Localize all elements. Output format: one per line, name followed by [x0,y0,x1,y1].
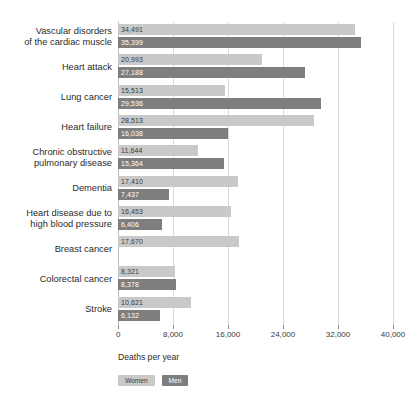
bar-value-label: 10,621 [121,297,143,308]
bar-value-label: 29,536 [121,98,143,109]
bar-group: 8,3218,378 [118,264,393,294]
bar-value-label: 20,993 [121,54,143,65]
bar-women[interactable]: 16,453 [118,206,231,217]
x-tick [173,325,174,329]
bar-men[interactable]: 29,536 [118,98,321,109]
bar-women[interactable]: 17,410 [118,176,238,187]
x-axis-title: Deaths per year [118,352,179,362]
bar-value-label: 8,321 [121,266,139,277]
bar-group: 17,4107,437 [118,174,393,204]
category-label: Colorectal cancer [0,274,112,285]
category-label: Stroke [0,304,112,315]
bar-value-label: 16,038 [121,128,143,139]
chart-legend: Women Men [118,375,188,386]
legend-item-men[interactable]: Men [162,375,189,386]
bar-value-label: 17,410 [121,176,143,187]
x-tick [228,325,229,329]
bar-value-label: 8,378 [121,279,139,290]
bar-group: 16,4536,406 [118,204,393,234]
x-axis: 08,00016,00024,00032,00040,000 [118,325,393,341]
x-tick-label: 32,000 [326,330,350,339]
bar-value-label: 27,188 [121,67,143,78]
bar-men[interactable]: 6,132 [118,310,160,321]
bar-group: 17,670 [118,234,393,264]
bar-value-label: 15,513 [121,85,143,96]
category-label: Chronic obstructive pulmonary disease [0,147,112,169]
x-tick-label: 24,000 [271,330,295,339]
category-label: Breast cancer [0,244,112,255]
bar-value-label: 7,437 [121,189,139,200]
bar-men[interactable]: 16,038 [118,128,228,139]
bar-men[interactable]: 6,406 [118,219,162,230]
x-tick [118,325,119,329]
bar-women[interactable]: 10,621 [118,297,191,308]
bar-group: 20,99327,188 [118,52,393,82]
bar-value-label: 28,513 [121,115,143,126]
x-tick-label: 8,000 [163,330,183,339]
x-tick [283,325,284,329]
x-tick [393,325,394,329]
bar-men[interactable]: 7,437 [118,189,169,200]
x-tick-label: 0 [116,330,120,339]
bar-value-label: 11,644 [121,145,143,156]
bar-men[interactable]: 35,399 [118,37,361,48]
bar-value-label: 15,364 [121,158,143,169]
bar-men[interactable]: 27,188 [118,67,305,78]
x-tick-label: 40,000 [381,330,405,339]
plot-area: 34,49135,39920,99327,18815,51329,53628,5… [118,22,393,325]
x-tick-label: 16,000 [216,330,240,339]
bar-group: 10,6216,132 [118,295,393,325]
bar-group: 11,64415,364 [118,143,393,173]
bar-women[interactable]: 11,644 [118,145,198,156]
gridline [393,22,394,325]
bar-women[interactable]: 17,670 [118,236,239,247]
category-label: Dementia [0,183,112,194]
category-axis-labels: Vascular disorders of the cardiac muscle… [0,22,112,325]
bar-value-label: 16,453 [121,206,143,217]
category-label: Heart disease due to high blood pressure [0,208,112,230]
bar-men[interactable]: 15,364 [118,158,224,169]
bar-group: 15,51329,536 [118,83,393,113]
bar-value-label: 6,132 [121,310,139,321]
bar-value-label: 35,399 [121,37,143,48]
bar-group: 28,51316,038 [118,113,393,143]
bar-women[interactable]: 20,993 [118,54,262,65]
legend-item-women[interactable]: Women [118,375,155,386]
bar-chart: Vascular disorders of the cardiac muscle… [0,0,409,407]
category-label: Heart failure [0,122,112,133]
bar-men[interactable]: 8,378 [118,279,176,290]
bar-rows: 34,49135,39920,99327,18815,51329,53628,5… [118,22,393,325]
category-label: Lung cancer [0,92,112,103]
bar-value-label: 17,670 [121,236,143,247]
category-label: Vascular disorders of the cardiac muscle [0,26,112,48]
bar-value-label: 34,491 [121,24,143,35]
bar-women[interactable]: 34,491 [118,24,355,35]
x-tick [338,325,339,329]
bar-value-label: 6,406 [121,219,139,230]
bar-women[interactable]: 28,513 [118,115,314,126]
category-label: Heart attack [0,62,112,73]
bar-group: 34,49135,399 [118,22,393,52]
bar-women[interactable]: 8,321 [118,266,175,277]
bar-women[interactable]: 15,513 [118,85,225,96]
